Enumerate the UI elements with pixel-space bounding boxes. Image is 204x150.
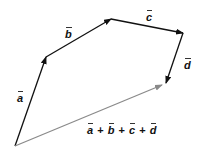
label-d: d bbox=[184, 60, 191, 71]
label-c: c bbox=[146, 12, 152, 23]
label-b: b bbox=[65, 29, 72, 40]
label-sum: a + b + c + d bbox=[87, 125, 156, 136]
vector-d bbox=[166, 33, 183, 83]
vector-resultant bbox=[15, 85, 162, 146]
vector-b bbox=[46, 19, 111, 57]
label-a: a bbox=[17, 93, 23, 104]
